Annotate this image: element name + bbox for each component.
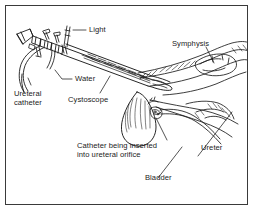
label-bladder: Bladder [145,173,172,182]
tissue-hatching-upper [140,45,247,79]
cystoscopy-figure: Light Symphysis Water Ureteral catheter … [0,0,254,211]
cystoscope-eyepiece [17,29,67,54]
label-catheter-inserted-line1: Catheter being inserted [77,141,157,150]
water-inflow-tubing [47,50,55,69]
catheter-connector [29,44,35,50]
ureter-tube [160,109,221,144]
pelvic-floor-contour [150,100,238,137]
label-ureteral-catheter-line2: catheter [14,98,42,107]
label-ureteral-catheter-line1: Ureteral [14,89,41,98]
label-symphysis: Symphysis [172,39,209,48]
label-catheter-inserted-line2: into ureteral orifice [77,150,141,159]
label-ureter: Ureter [201,143,222,152]
label-water: Water [75,74,95,83]
label-cystoscope: Cystoscope [68,95,108,104]
light-cable [64,26,70,47]
pelvic-anatomy-outline [138,42,251,96]
label-light: Light [89,25,106,34]
tissue-hatching-lower [195,103,230,118]
